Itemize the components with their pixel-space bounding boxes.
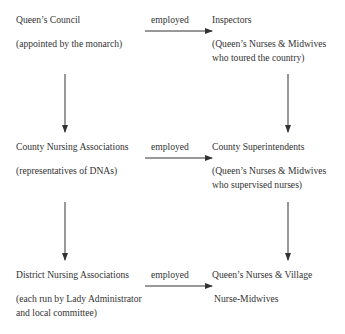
node-note-district-nursing-associations-1: (each run by Lady Administrator — [16, 293, 142, 305]
edge-label-employed-3: employed — [151, 269, 189, 281]
node-note-inspectors-2: who toured the country) — [212, 52, 304, 64]
node-note-nurse-midwives: Nurse-Midwives — [214, 293, 278, 305]
edge-label-employed-2: employed — [151, 141, 189, 153]
node-note-county-superintendents-1: (Queen’s Nurses & Midwives — [212, 165, 326, 177]
node-note-district-nursing-associations-2: and local committee) — [16, 307, 97, 319]
node-title-inspectors: Inspectors — [212, 14, 251, 26]
node-title-queens-council: Queen’s Council — [16, 14, 80, 26]
node-note-county-nursing-associations: (representatives of DNAs) — [16, 165, 117, 177]
node-title-district-nursing-associations: District Nursing Associations — [16, 269, 129, 281]
node-note-county-superintendents-2: who supervised nurses) — [212, 179, 302, 191]
node-note-inspectors-1: (Queen’s Nurses & Midwives — [212, 38, 326, 50]
node-title-queens-nurses-village: Queen’s Nurses & Village — [212, 269, 312, 281]
edge-label-employed-1: employed — [151, 14, 189, 26]
node-note-queens-council: (appointed by the monarch) — [16, 38, 122, 50]
node-title-county-nursing-associations: County Nursing Associations — [16, 141, 128, 153]
node-title-county-superintendents: County Superintendents — [212, 141, 304, 153]
